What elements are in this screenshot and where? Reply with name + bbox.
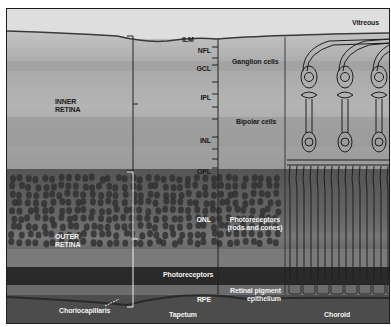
- label-rpe-1: Retinal pigment: [221, 287, 281, 295]
- nucleus: [25, 184, 31, 191]
- nucleus: [66, 174, 72, 181]
- nucleus: [16, 239, 22, 246]
- label-photoreceptors-1: Photoreceptors: [225, 216, 285, 224]
- nucleus: [179, 192, 185, 199]
- nucleus: [26, 192, 32, 199]
- nucleus: [170, 206, 176, 213]
- nucleus: [67, 216, 73, 223]
- nucleus: [129, 214, 135, 221]
- nucleus: [96, 182, 102, 189]
- nucleus: [8, 238, 14, 245]
- nucleus: [219, 199, 225, 206]
- nucleus: [217, 174, 223, 181]
- nucleus: [234, 206, 240, 213]
- nucleus: [163, 197, 169, 204]
- label-vitreous: Vitreous: [352, 19, 379, 27]
- nucleus: [74, 207, 80, 214]
- nucleus: [249, 198, 255, 205]
- nucleus: [28, 207, 34, 214]
- nucleus: [43, 229, 49, 236]
- nucleus: [83, 184, 89, 191]
- nucleus: [43, 240, 49, 247]
- nucleus: [243, 238, 249, 245]
- nucleus: [203, 191, 209, 198]
- nucleus: [113, 239, 119, 246]
- nucleus: [243, 175, 249, 182]
- label-outer-retina-2: RETINA: [55, 241, 80, 249]
- rpe-band: [7, 285, 390, 295]
- nucleus: [80, 206, 86, 213]
- nucleus: [177, 198, 183, 205]
- nucleus: [123, 191, 129, 198]
- nucleus: [75, 174, 81, 181]
- nucleus: [177, 238, 183, 245]
- nucleus: [152, 182, 158, 189]
- nucleus: [259, 190, 265, 197]
- nucleus: [73, 190, 79, 197]
- nucleus: [251, 190, 257, 197]
- nucleus: [234, 239, 240, 246]
- nucleus: [226, 174, 232, 181]
- nucleus: [32, 224, 38, 231]
- nucleus: [121, 223, 127, 230]
- nucleus: [24, 214, 30, 221]
- nucleus: [172, 215, 178, 222]
- label-nfl: NFL: [187, 47, 211, 55]
- nucleus: [138, 240, 144, 247]
- nucleus: [99, 230, 105, 237]
- nucleus: [192, 181, 198, 188]
- nucleus: [139, 232, 145, 239]
- label-photoreceptors-2: (rods and cones): [225, 224, 285, 232]
- nucleus: [11, 222, 17, 229]
- nucleus: [216, 240, 222, 247]
- nucleus: [265, 191, 271, 198]
- nucleus: [26, 223, 32, 230]
- nucleus: [170, 230, 176, 237]
- nucleus: [80, 214, 86, 221]
- nucleus: [112, 214, 118, 221]
- nucleus: [194, 206, 200, 213]
- nucleus: [106, 216, 112, 223]
- nucleus: [153, 200, 159, 207]
- nucleus: [98, 215, 104, 222]
- nucleus: [252, 174, 258, 181]
- nucleus: [9, 207, 15, 214]
- nucleus: [106, 208, 112, 215]
- nucleus: [91, 230, 97, 237]
- nucleus: [137, 176, 143, 183]
- nucleus: [10, 191, 16, 198]
- nucleus: [212, 230, 218, 237]
- nucleus: [80, 191, 86, 198]
- nucleus: [8, 231, 14, 238]
- nucleus: [106, 230, 112, 237]
- nucleus: [42, 224, 48, 231]
- nucleus: [129, 230, 135, 237]
- nucleus: [42, 175, 48, 182]
- nucleus: [170, 198, 176, 205]
- nucleus: [146, 222, 152, 229]
- nucleus: [32, 239, 38, 246]
- nucleus: [257, 198, 263, 205]
- label-inner-retina-2: RETINA: [55, 106, 80, 114]
- nucleus: [131, 174, 137, 181]
- nucleus: [226, 205, 232, 212]
- nucleus: [153, 216, 159, 223]
- nucleus: [113, 232, 119, 239]
- nucleus: [161, 176, 167, 183]
- nucleus: [59, 208, 65, 215]
- nucleus: [218, 191, 224, 198]
- nucleus: [146, 174, 152, 181]
- nucleus: [210, 206, 216, 213]
- nucleus: [34, 214, 40, 221]
- nucleus: [162, 222, 168, 229]
- nucleus: [19, 182, 25, 189]
- label-inner-retina-1: INNER: [55, 98, 76, 106]
- nucleus: [17, 208, 23, 215]
- nucleus: [98, 192, 104, 199]
- nucleus: [41, 200, 47, 207]
- nucleus: [91, 239, 97, 246]
- nucleus: [265, 205, 271, 212]
- nucleus: [122, 184, 128, 191]
- nucleus: [16, 174, 22, 181]
- nucleus: [28, 230, 34, 237]
